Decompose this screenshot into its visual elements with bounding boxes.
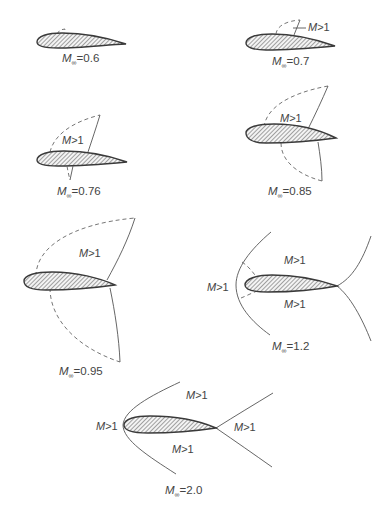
airfoil-section <box>245 275 337 292</box>
region-label-supersonic-upper: M>1 <box>284 254 306 266</box>
trailing-shock-lower <box>216 428 272 467</box>
airfoil-section <box>37 33 126 48</box>
shock-wave <box>308 86 328 129</box>
sonic-line <box>276 20 300 34</box>
panel-mach-0-6: M∞=0.6 <box>37 29 126 66</box>
airfoil-section <box>246 34 335 50</box>
shock-wave <box>88 115 100 152</box>
mach-label: M∞=2.0 <box>165 484 202 498</box>
region-label-supersonic-lower: M>1 <box>284 298 306 310</box>
sonic-line-lower <box>50 288 120 362</box>
sonic-line-lower <box>67 166 70 180</box>
airfoil-section <box>124 416 216 433</box>
sonic-line-lower <box>281 143 322 181</box>
shock-wave-lower <box>110 288 120 362</box>
panel-mach-2-0: M>1 M>1 M>1 M>1 M∞=2.0 <box>96 382 273 498</box>
region-label-supersonic: M>1 <box>79 247 101 259</box>
region-label-supersonic-wake: M>1 <box>234 421 256 433</box>
mach-label: M∞=0.95 <box>59 365 103 379</box>
region-label-supersonic: M>1 <box>308 21 330 33</box>
mach-label: M∞=1.2 <box>272 340 309 354</box>
region-label-supersonic-upstream: M>1 <box>96 420 118 432</box>
sonic-line-upper <box>242 262 257 278</box>
mach-label: M∞=0.85 <box>268 185 312 199</box>
region-label-supersonic: M>1 <box>62 134 84 146</box>
mach-label: M∞=0.6 <box>62 52 99 66</box>
airfoil-section <box>246 124 336 143</box>
region-label-supersonic-upper: M>1 <box>186 389 208 401</box>
shock-wave <box>107 218 135 280</box>
shock-wave-lower <box>318 142 322 181</box>
panel-mach-0-95: M>1 M∞=0.95 <box>24 218 135 379</box>
airfoil-section <box>37 151 127 166</box>
airfoil-section <box>24 272 115 290</box>
region-label-supersonic-lower: M>1 <box>172 443 194 455</box>
sonic-line-lower <box>241 291 257 298</box>
shock-wave <box>294 20 300 35</box>
panel-mach-0-85: M>1 M∞=0.85 <box>246 86 336 199</box>
panel-mach-1-2: M>1 M>1 M>1 M∞=1.2 <box>207 232 371 354</box>
panel-mach-0-76: M>1 M∞=0.76 <box>37 115 127 199</box>
trailing-shock-upper <box>337 236 371 286</box>
panel-mach-0-7: M>1 M∞=0.7 <box>246 20 335 69</box>
trailing-shock-lower <box>337 286 371 341</box>
region-label-supersonic-upstream: M>1 <box>207 281 229 293</box>
transonic-airfoil-diagram: M∞=0.6 M>1 M∞=0.7 M>1 M∞=0.76 <box>0 0 390 515</box>
mach-label: M∞=0.7 <box>272 55 309 69</box>
region-label-supersonic: M>1 <box>280 112 302 124</box>
mach-label: M∞=0.76 <box>57 185 101 199</box>
shock-wave-lower <box>70 166 73 180</box>
